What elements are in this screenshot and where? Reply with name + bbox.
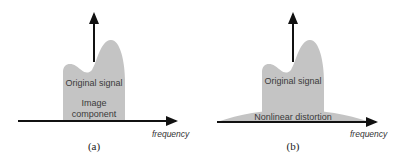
- frequency-axis-label: frequency: [152, 129, 190, 139]
- diagram-canvas: Original signal Image component frequenc…: [0, 0, 401, 164]
- nonlinear-distortion-label: Nonlinear distortion: [254, 112, 332, 122]
- panel-b: Original signal Nonlinear distortion fre…: [217, 14, 388, 153]
- image-component-label-line1: Image: [81, 98, 106, 108]
- original-signal-label: Original signal: [65, 78, 122, 88]
- image-component-label-line2: component: [72, 109, 117, 119]
- original-signal-label: Original signal: [264, 76, 321, 86]
- caption-b: (b): [287, 140, 300, 153]
- caption-a: (a): [88, 140, 101, 153]
- panel-a: Original signal Image component frequenc…: [18, 14, 190, 153]
- frequency-axis-label: frequency: [350, 129, 388, 139]
